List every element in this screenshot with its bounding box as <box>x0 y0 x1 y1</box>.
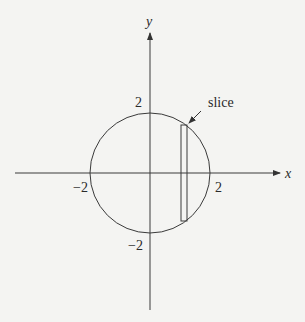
tick-x-pos: 2 <box>215 180 222 195</box>
y-axis-label: y <box>144 14 153 29</box>
x-axis-label: x <box>284 166 292 181</box>
tick-x-neg: −2 <box>73 180 88 195</box>
tick-y-neg: −2 <box>128 238 143 253</box>
slice-label: slice <box>208 95 234 110</box>
circle-slice-diagram: x y 2 −2 2 −2 slice <box>0 0 305 322</box>
diagram-canvas: x y 2 −2 2 −2 slice <box>0 0 305 322</box>
tick-y-pos: 2 <box>135 95 142 110</box>
slice-arrow <box>189 111 201 123</box>
